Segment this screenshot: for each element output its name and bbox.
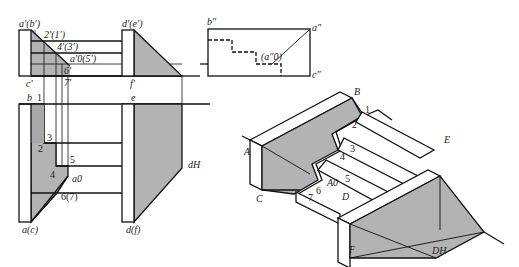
label-A-axo: A [243, 146, 251, 157]
axonometric-view [242, 92, 504, 267]
label-ab-front: a′(b′) [19, 18, 41, 30]
label-df-plan: d(f) [126, 224, 141, 236]
label-e-plan: e [131, 92, 136, 103]
label-a0-plan: a0 [72, 173, 82, 184]
label-3-axo: 3 [350, 143, 355, 154]
label-4-plan: 4 [50, 169, 55, 180]
label-4-axo: 4 [340, 151, 345, 162]
label-C-axo: C [256, 193, 263, 204]
label-6-axo: 6 [316, 185, 321, 196]
label-B-axo: B [354, 86, 360, 97]
side-view [200, 29, 310, 76]
label-2-plan: 2 [38, 143, 43, 154]
label-D-axo: D [341, 191, 350, 202]
label-DH-axo: DH [431, 245, 447, 256]
label-E-axo: E [443, 134, 450, 145]
label-5-axo: 5 [345, 173, 350, 184]
label-6-front: 6′ [64, 65, 72, 76]
plan-view [19, 104, 210, 222]
label-7-axo: 7 [308, 192, 313, 203]
label-dH-plan: dH [188, 159, 201, 170]
label-7-front: 7′ [64, 77, 72, 88]
label-43-front: 4′(3′) [57, 41, 79, 53]
label-b-side: b″ [207, 16, 217, 27]
label-2-axo: 2 [352, 119, 357, 130]
label-c-side: c″ [312, 69, 321, 80]
label-f-front: f′ [130, 78, 136, 89]
label-1-axo: 1 [365, 104, 370, 115]
label-ac-plan: a(c) [22, 224, 39, 236]
label-5-plan: 5 [70, 154, 75, 165]
label-21-front: 2′(1′) [44, 29, 66, 41]
label-a0-side: (a″0) [261, 51, 282, 63]
label-a-side: a″ [312, 22, 322, 33]
label-de-front: d′(e′) [122, 18, 143, 30]
label-a05-front: a′0(5′) [70, 53, 97, 65]
label-A0-axo: A0 [326, 177, 338, 188]
label-3-plan: 3 [47, 132, 52, 143]
label-c-front: c′ [26, 78, 33, 89]
label-1-plan: 1 [37, 92, 42, 103]
label-b-plan: b [27, 92, 32, 103]
shadow-projection-diagram: a′(b′) d′(e′) 2′(1′) 4′(3′) a′0(5′) 6′ 7… [0, 0, 519, 267]
label-F-axo: F [348, 244, 356, 255]
label-67-plan: 6(7) [61, 191, 78, 203]
